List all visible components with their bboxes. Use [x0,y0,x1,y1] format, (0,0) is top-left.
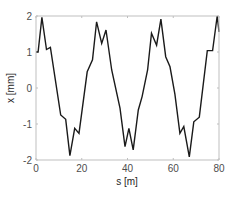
y-tick-label: 0 [26,83,32,94]
x-tick-label: 40 [122,163,134,174]
y-tick-label: -1 [23,119,32,130]
y-axis-label: x [mm] [5,73,16,103]
x-tick-label: 20 [76,163,88,174]
y-tick-labels: -2-1012 [23,11,32,166]
x-axis-label: s [m] [116,176,138,187]
line-chart: 020406080 -2-1012 s [m] x [mm] [0,0,233,197]
y-tick-label: 1 [26,47,32,58]
y-tick-label: -2 [23,155,32,166]
x-tick-label: 80 [213,163,225,174]
x-tick-label: 0 [33,163,39,174]
y-tick-label: 2 [26,11,32,22]
x-tick-label: 60 [168,163,180,174]
x-tick-labels: 020406080 [33,163,225,174]
